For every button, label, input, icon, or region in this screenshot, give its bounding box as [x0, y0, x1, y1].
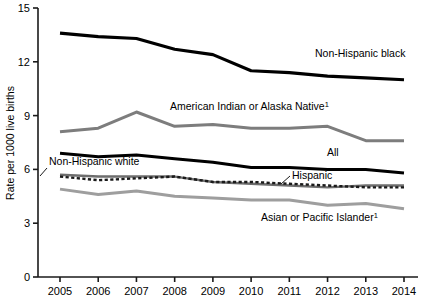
x-axis-tick-label: 2009	[201, 285, 225, 297]
x-axis-tick-label: 2007	[124, 285, 148, 297]
line-chart: 03691215 2005200620072008200920102011201…	[0, 0, 423, 299]
series-label-asian-or-pacific-islander: Asian or Pacific Islander1	[261, 211, 378, 224]
series-label-american-indian-or-alaska-native: American Indian or Alaska Native1	[170, 100, 329, 113]
x-axis-tick-label: 2008	[162, 285, 186, 297]
series-label-non-hispanic-white: Non-Hispanic white	[49, 155, 140, 167]
series-label-non-hispanic-black: Non-Hispanic black	[315, 47, 406, 59]
y-axis-tick-label: 9	[24, 110, 30, 122]
x-axis-tick-label: 2006	[86, 285, 110, 297]
y-axis-tick-label: 0	[24, 271, 30, 283]
chart-container: 03691215 2005200620072008200920102011201…	[0, 0, 423, 299]
series-label-all: All	[327, 146, 339, 158]
x-axis-tick-label: 2012	[315, 285, 339, 297]
y-axis-tick-label: 3	[24, 217, 30, 229]
series-label-hispanic: Hispanic	[292, 169, 332, 181]
x-axis-tick-label: 2010	[239, 285, 263, 297]
y-axis-tick-label: 6	[24, 163, 30, 175]
y-axis-tick-label: 12	[18, 56, 30, 68]
x-axis-tick-label: 2014	[392, 285, 416, 297]
y-axis-tick-label: 15	[18, 2, 30, 14]
x-axis-tick-label: 2005	[48, 285, 72, 297]
chart-background	[0, 0, 423, 299]
x-axis-tick-label: 2013	[354, 285, 378, 297]
y-axis-title: Rate per 1000 live births	[4, 86, 16, 200]
x-axis-tick-label: 2011	[278, 285, 302, 297]
